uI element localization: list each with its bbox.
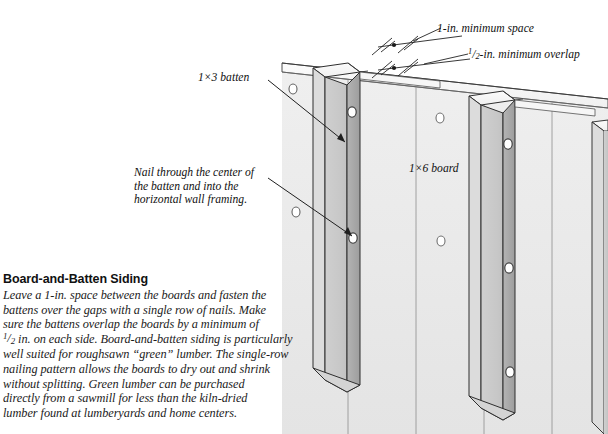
caption-body: Leave a 1-in. space between the boards a… [3, 288, 303, 420]
batten-right [592, 120, 608, 434]
label-1x3-batten: 1×3 batten [198, 71, 249, 85]
caption-line-8: directly from a sawmill for less than th… [3, 391, 303, 406]
figure-caption: Board-and-Batten Siding Leave a 1-in. sp… [3, 272, 303, 420]
caption-line-7: without splitting. Green lumber can be p… [3, 377, 303, 392]
caption-line-3: sure the battens overlap the boards by a… [3, 317, 303, 332]
caption-line-2: battens over the gaps with a single row … [3, 303, 303, 318]
caption-line-5: well suited for roughsawn “green” lumber… [3, 347, 303, 362]
caption-line-6: nailing pattern allows the boards to dry… [3, 362, 303, 377]
caption-title: Board-and-Batten Siding [3, 272, 303, 287]
caption-line-9: lumber found at lumberyards and home cen… [3, 406, 303, 421]
nail-note-line-2: the batten and into the [134, 180, 366, 194]
half-fraction-glyph: 1/2 [468, 48, 480, 63]
label-minimum-space: 1-in. minimum space [437, 22, 534, 36]
caption-line-1: Leave a 1-in. space between the boards a… [3, 288, 303, 303]
label-nail-instruction: Nail through the center of the batten an… [134, 166, 366, 207]
half-fraction-glyph: 1/2 [3, 331, 15, 347]
label-minimum-overlap-text: -in. minimum overlap [480, 48, 580, 61]
batten-left [313, 63, 360, 392]
nail-note-line-3: horizontal wall framing. [134, 193, 366, 207]
label-minimum-overlap: 1/2-in. minimum overlap [468, 48, 580, 63]
label-1x6-board: 1×6 board [409, 162, 459, 176]
batten-center [469, 91, 515, 420]
nail-note-line-1: Nail through the center of [134, 166, 366, 180]
caption-line-4: 1/2 in. on each side. Board-and-batten s… [3, 332, 303, 348]
board-and-batten-siding-figure: 1×3 batten 1×6 board 1-in. minimum space… [0, 0, 608, 434]
